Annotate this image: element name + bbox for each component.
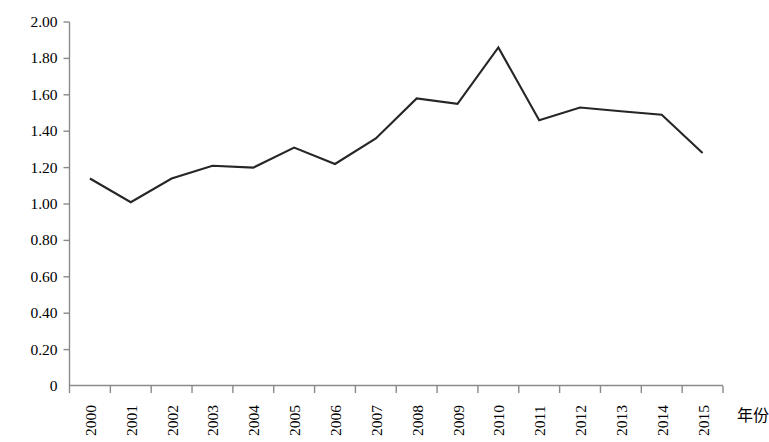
x-tick-label: 2008 (410, 405, 426, 436)
x-tick-label: 2005 (287, 405, 303, 436)
x-tick-label: 2015 (696, 405, 712, 436)
x-tick-label: 2002 (165, 405, 181, 436)
x-tick-label: 2003 (205, 405, 221, 436)
y-tick-label: 1.00 (30, 196, 57, 212)
y-tick-label: 2.00 (30, 14, 57, 30)
y-tick-label: 1.60 (30, 87, 57, 103)
y-tick-label: 1.20 (30, 160, 57, 176)
x-axis-ticks (70, 386, 724, 393)
x-tick-label: 2007 (369, 405, 385, 436)
y-tick-label: 1.40 (30, 123, 57, 139)
data-series-line (90, 47, 703, 202)
y-axis-ticks (64, 22, 70, 350)
y-tick-label: 0 (50, 378, 58, 394)
line-chart: 2.001.801.601.401.201.000.800.600.400.20… (0, 0, 769, 442)
x-tick-label: 2010 (491, 405, 507, 436)
x-tick-label: 2013 (614, 405, 630, 436)
x-tick-label: 2006 (328, 405, 344, 436)
y-tick-label: 0.20 (30, 342, 57, 358)
x-tick-label: 2004 (246, 405, 262, 436)
y-tick-label: 1.80 (30, 50, 57, 66)
x-tick-label: 2012 (573, 405, 589, 436)
y-tick-label: 0.80 (30, 232, 57, 248)
x-tick-label: 2014 (655, 405, 671, 436)
x-axis-title: 年份 (737, 408, 769, 424)
x-tick-label: 2000 (83, 405, 99, 436)
chart-plot-area (0, 0, 769, 442)
x-tick-label: 2009 (451, 405, 467, 436)
y-tick-label: 0.40 (30, 305, 57, 321)
x-tick-label: 2011 (532, 406, 548, 436)
y-tick-label: 0.60 (30, 269, 57, 285)
x-tick-label: 2001 (124, 405, 140, 436)
